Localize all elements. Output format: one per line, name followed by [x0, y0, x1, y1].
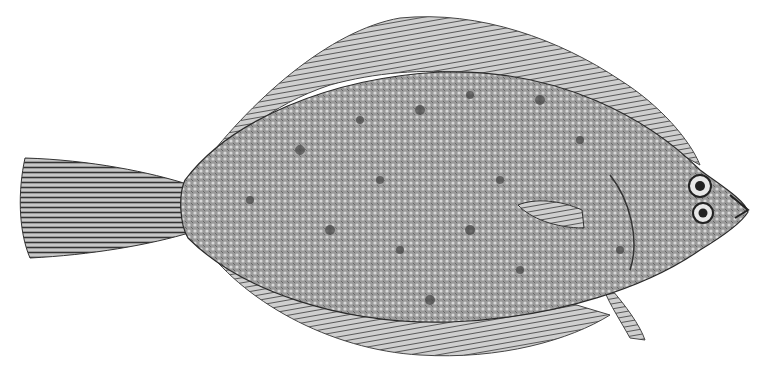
- pelvic-fin: [605, 290, 645, 340]
- flatfish-illustration: [0, 0, 766, 370]
- illustration-canvas: [0, 0, 766, 370]
- tail-fin: [20, 158, 192, 258]
- eye-lower: [693, 203, 713, 223]
- eye-upper: [689, 175, 711, 197]
